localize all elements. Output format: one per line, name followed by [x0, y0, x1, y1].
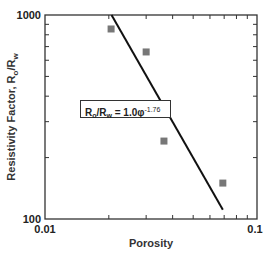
- chart: 1000 100 0.01 0.1 Porosity Resistivity F…: [0, 0, 268, 254]
- data-point: [108, 25, 115, 32]
- x-tick-0.01: 0.01: [34, 223, 55, 235]
- data-point: [219, 180, 226, 187]
- x-tick-0.1: 0.1: [247, 223, 262, 235]
- data-point: [143, 48, 150, 55]
- equation-annotation: Ro/Rw = 1.0φ-1.76: [80, 100, 171, 118]
- x-axis-title: Porosity: [129, 237, 174, 249]
- y-tick-1000: 1000: [17, 9, 41, 21]
- y-axis-title: Resistivity Factor, Ro/Rw: [5, 53, 20, 181]
- y-minor-ticks: [45, 24, 257, 157]
- data-point: [160, 138, 167, 145]
